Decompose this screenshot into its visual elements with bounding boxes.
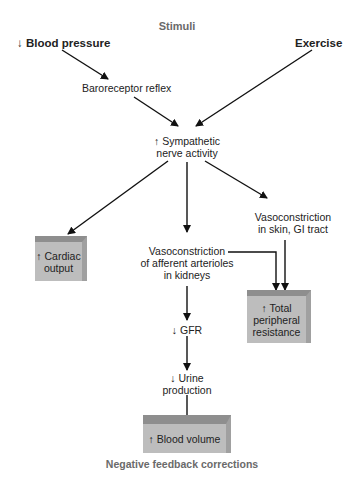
tpr-line-1: ↑ Total	[247, 302, 306, 314]
sympathetic-line-1: ↑ Sympathetic	[137, 135, 237, 147]
vaso-kidney-line-2: of afferent arterioles	[127, 257, 247, 269]
vaso-kidney-line-3: in kidneys	[127, 269, 247, 281]
vaso-skin-line-2: in skin, GI tract	[243, 223, 343, 235]
vaso-kidney-line-1: Vasoconstriction	[127, 245, 247, 257]
blood-volume-box: ↑ Blood volume	[143, 415, 231, 453]
cardiac-line-2: output	[35, 262, 82, 274]
vaso-skin-line-1: Vasoconstriction	[243, 211, 343, 223]
vasoconstriction-skin: Vasoconstriction in skin, GI tract	[243, 211, 343, 235]
urine-production: ↓ Urine production	[152, 372, 222, 396]
sympathetic-nerve-activity: ↑ Sympathetic nerve activity	[137, 135, 237, 159]
stimulus-blood-pressure: ↓ Blood pressure	[17, 37, 110, 49]
tpr-line-3: resistance	[247, 326, 306, 338]
stimulus-exercise: Exercise	[295, 37, 342, 49]
stimuli-title: Stimuli	[147, 20, 207, 32]
tpr-line-2: peripheral	[247, 314, 306, 326]
gfr: ↓ GFR	[162, 324, 212, 336]
vasoconstriction-kidneys: Vasoconstriction of afferent arterioles …	[127, 245, 247, 281]
urine-line-2: production	[152, 384, 222, 396]
blood-volume-label: ↑ Blood volume	[143, 433, 226, 445]
cardiac-line-1: ↑ Cardiac	[35, 250, 82, 262]
total-peripheral-resistance-box: ↑ Total peripheral resistance	[247, 290, 311, 343]
cardiac-output-box: ↑ Cardiac output	[35, 236, 87, 281]
urine-line-1: ↓ Urine	[152, 372, 222, 384]
negative-feedback-caption: Negative feedback corrections	[97, 458, 267, 470]
sympathetic-line-2: nerve activity	[137, 147, 237, 159]
baroreceptor-reflex: Baroreceptor reflex	[82, 82, 171, 94]
